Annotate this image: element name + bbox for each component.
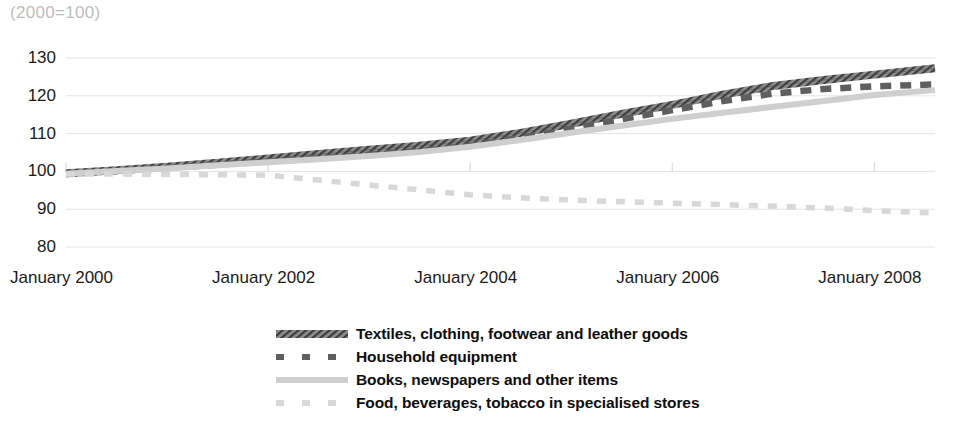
legend-swatch-graphic	[276, 351, 348, 363]
y-axis-tick-label: 80	[14, 237, 56, 257]
legend-swatch-graphic	[276, 374, 348, 386]
legend-label-food: Food, beverages, tobacco in specialised …	[356, 394, 699, 412]
plot-area: 8090100110120130	[0, 30, 957, 275]
legend-swatch-textiles	[276, 328, 348, 339]
legend-swatch-food	[276, 397, 348, 408]
gridlines	[66, 58, 935, 247]
y-axis-tick-label: 110	[14, 124, 56, 144]
y-axis-tick-label: 120	[14, 86, 56, 106]
plot-svg	[0, 30, 957, 275]
legend-item-textiles[interactable]: Textiles, clothing, footwear and leather…	[276, 322, 896, 345]
series-line-food	[66, 174, 935, 213]
chart-container: (2000=100) 8090100110120130 January 2000…	[0, 0, 957, 439]
series-layer	[66, 68, 935, 213]
y-axis-tick-label: 90	[14, 199, 56, 219]
legend-label-books: Books, newspapers and other items	[356, 371, 618, 389]
legend-item-food[interactable]: Food, beverages, tobacco in specialised …	[276, 391, 896, 414]
chart-unit-title: (2000=100)	[10, 3, 100, 23]
x-axis-tick-label: January 2000	[10, 268, 113, 288]
x-axis-tick-label: January 2006	[616, 268, 719, 288]
legend-swatch-books	[276, 374, 348, 385]
series-line-textiles	[66, 68, 935, 173]
legend-item-household-equipment[interactable]: Household equipment	[276, 345, 896, 368]
legend-label-household-equipment: Household equipment	[356, 348, 517, 366]
x-axis-tick-label: January 2004	[414, 268, 517, 288]
x-axis-tick-label: January 2002	[212, 268, 315, 288]
legend-item-books[interactable]: Books, newspapers and other items	[276, 368, 896, 391]
y-axis-tick-label: 130	[14, 48, 56, 68]
chart-legend: Textiles, clothing, footwear and leather…	[276, 322, 896, 414]
y-axis-tick-label: 100	[14, 161, 56, 181]
x-axis-tick-label: January 2008	[818, 268, 921, 288]
legend-label-textiles: Textiles, clothing, footwear and leather…	[356, 325, 688, 343]
legend-swatch-graphic	[276, 328, 348, 340]
legend-swatch-graphic	[276, 397, 348, 409]
legend-swatch-household-equipment	[276, 351, 348, 362]
